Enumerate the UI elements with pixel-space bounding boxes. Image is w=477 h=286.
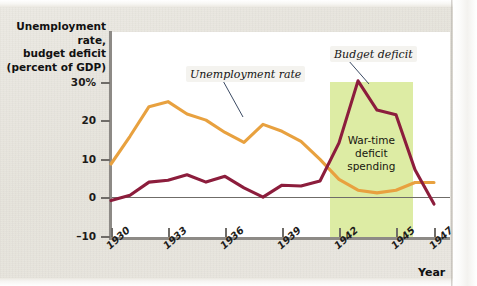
y-tick-mark-20 — [101, 120, 110, 122]
y-axis-title-line-3: (percent of GDP) — [2, 61, 106, 75]
y-tick-label-20: 20 — [81, 114, 96, 126]
zero-reference-line — [111, 197, 450, 198]
y-axis-title-line-1: Unemployment rate, — [2, 20, 106, 47]
y-axis-title-line-2: budget deficit — [2, 47, 106, 61]
y-tick-mark-30 — [101, 82, 110, 84]
y-tick-label-30: 30% — [71, 76, 96, 88]
y-tick-mark-10 — [101, 159, 110, 161]
page-top-edge — [0, 0, 477, 7]
war-label-line-2: deficit — [330, 147, 414, 160]
y-tick-label-neg10: –10 — [76, 230, 96, 242]
page-right-margin — [453, 0, 477, 286]
y-tick-label-0: 0 — [89, 191, 96, 203]
war-label-line-3: spending — [330, 160, 414, 173]
y-tick-mark-0 — [101, 197, 110, 199]
y-axis-title: Unemployment rate, budget deficit (perce… — [2, 20, 106, 74]
y-axis-line — [109, 31, 112, 240]
war-time-region-label: War-time deficit spending — [330, 134, 414, 173]
budget-deficit-callout-label: Budget deficit — [330, 46, 417, 62]
unemployment-rate-callout-label: Unemployment rate — [186, 66, 305, 82]
page-bottom-edge — [0, 278, 477, 286]
war-label-line-1: War-time — [330, 134, 414, 147]
x-axis-title: Year — [418, 266, 445, 279]
figure-container: Unemployment rate, budget deficit (perce… — [0, 0, 477, 286]
y-tick-label-10: 10 — [81, 153, 96, 165]
